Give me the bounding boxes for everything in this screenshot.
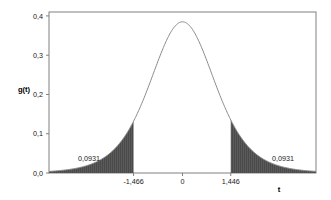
y-axis-tick-label-0: 0,0 bbox=[33, 169, 43, 178]
chart-canvas: 0,00,10,20,30,4 -1,46601,446 g(t) t 0,09… bbox=[0, 0, 331, 200]
x-axis-tick-label-0: -1,466 bbox=[123, 177, 143, 186]
t-distribution-chart: 0,00,10,20,30,4 -1,46601,446 g(t) t 0,09… bbox=[0, 0, 331, 200]
right-tail-area-label: 0,0931 bbox=[272, 154, 294, 163]
y-axis-tick-label-1: 0,1 bbox=[33, 129, 43, 138]
y-axis-title: g(t) bbox=[18, 85, 31, 94]
plot-frame bbox=[49, 12, 316, 173]
x-axis-tick-label-1: 0 bbox=[181, 177, 185, 186]
y-axis-tick-label-4: 0,4 bbox=[33, 12, 43, 21]
y-axis-tick-label-3: 0,3 bbox=[33, 51, 43, 60]
x-axis-tick-label-2: 1,446 bbox=[222, 177, 240, 186]
y-axis-tick-label-2: 0,2 bbox=[33, 90, 43, 99]
left-tail-area-label: 0,0931 bbox=[78, 154, 100, 163]
